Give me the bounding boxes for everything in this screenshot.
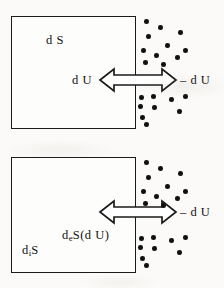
surrounding-particle bbox=[139, 236, 144, 241]
surrounding-particle bbox=[143, 201, 148, 206]
panel-bottom: diS deS(d U) – d U bbox=[0, 0, 224, 144]
surrounding-particle bbox=[140, 256, 145, 261]
surrounding-particle bbox=[178, 171, 183, 176]
entropy-label-diS: diS bbox=[22, 243, 39, 258]
surrounding-particle bbox=[158, 166, 163, 171]
surrounding-particle bbox=[144, 160, 149, 165]
surrounding-particle bbox=[138, 245, 143, 250]
entropy-flow-label-deS: deS(d U) bbox=[62, 228, 109, 243]
surrounding-particle bbox=[183, 235, 188, 240]
surrounding-particle bbox=[169, 238, 174, 243]
surrounding-particle bbox=[152, 246, 157, 251]
surrounding-particle bbox=[165, 184, 170, 189]
surrounding-particle bbox=[146, 175, 151, 180]
surrounding-particle bbox=[161, 203, 166, 208]
surrounding-particle bbox=[141, 189, 146, 194]
surrounding-particle bbox=[183, 189, 188, 194]
surrounding-particle bbox=[154, 194, 159, 199]
surrounding-particle bbox=[177, 250, 182, 255]
entropy-exchange-figure: d S d U – d U diS bbox=[0, 0, 224, 288]
surrounding-particle bbox=[151, 235, 156, 240]
surrounding-particle bbox=[144, 263, 149, 268]
energy-label-minus-dU-right-bottom: – d U bbox=[180, 205, 210, 220]
surrounding-particle bbox=[175, 196, 180, 201]
